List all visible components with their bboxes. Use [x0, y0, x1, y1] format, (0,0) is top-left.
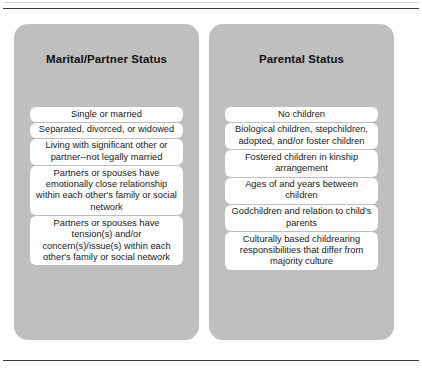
columns-container: Marital/Partner Status Single or married…	[14, 24, 394, 340]
list-item: Ages of and years between children	[225, 178, 378, 204]
panel-marital-partner-status: Marital/Partner Status Single or married…	[14, 24, 199, 340]
list-item: Living with significant other or partner…	[30, 139, 183, 165]
bottom-divider-rule	[3, 360, 419, 361]
list-item: Partners or spouses have tension(s) and/…	[30, 216, 183, 265]
list-item: Single or married	[30, 107, 183, 122]
item-list-marital-partner-status: Single or married Separated, divorced, o…	[30, 107, 183, 265]
top-hairline-divider	[3, 2, 419, 3]
list-item: Separated, divorced, or widowed	[30, 123, 183, 138]
panel-title-parental-status: Parental Status	[209, 24, 394, 67]
item-list-parental-status: No children Biological children, stepchi…	[225, 107, 378, 270]
list-item: Fostered children in kinship arrangement	[225, 150, 378, 176]
panel-title-marital-partner-status: Marital/Partner Status	[14, 24, 199, 67]
list-item: No children	[225, 107, 378, 122]
list-item: Culturally based childrearing responsibi…	[225, 232, 378, 270]
list-item: Biological children, stepchildren, adopt…	[225, 123, 378, 149]
page-canvas: Marital/Partner Status Single or married…	[0, 0, 422, 374]
list-item: Partners or spouses have emotionally clo…	[30, 166, 183, 215]
list-item: Godchildren and relation to child's pare…	[225, 205, 378, 231]
top-divider-rule	[3, 8, 419, 9]
panel-parental-status: Parental Status No children Biological c…	[209, 24, 394, 340]
